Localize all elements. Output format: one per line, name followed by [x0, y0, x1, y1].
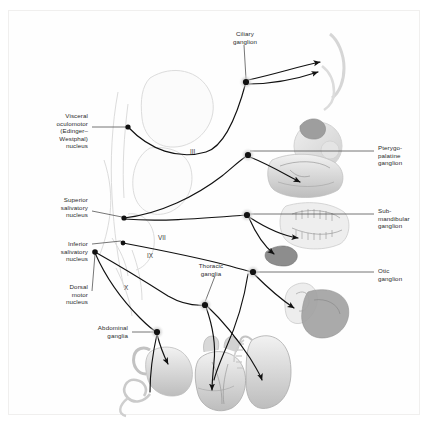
path-submandibular-to-gland	[249, 218, 274, 254]
label-cranial-nerve-x: X	[124, 284, 128, 291]
label-thoracic-ganglia: Thoracic ganglia	[182, 262, 240, 277]
leader-dorsal-motor	[92, 254, 95, 291]
label-visceral-oculomotor-nucleus: Visceral oculomotor (Edinger– Westphal) …	[16, 112, 88, 150]
label-ciliary-ganglion: Ciliary ganglion	[215, 30, 275, 45]
path-cn7-to-submandibular	[124, 215, 246, 220]
label-inferior-salivatory-nucleus: Inferior salivatory nucleus	[16, 240, 88, 263]
lacrimal-gland-illustration	[300, 119, 326, 139]
leader-ciliary-ganglion	[244, 45, 246, 79]
label-pterygopalatine-ganglion: Pterygo- palatine ganglion	[378, 144, 432, 167]
node-thoracic-ganglia	[198, 298, 213, 313]
label-cranial-nerve-iii: III	[190, 148, 195, 155]
eye-illustration	[294, 34, 344, 170]
label-cranial-nerve-vii: VII	[158, 234, 166, 241]
label-cranial-nerve-ix: IX	[147, 252, 153, 259]
parasympathetic-nervous-system-figure: Visceral oculomotor (Edinger– Westphal) …	[0, 0, 434, 432]
label-submandibular-ganglion: Sub- mandibular ganglion	[378, 207, 432, 230]
label-dorsal-motor-nucleus: Dorsal motor nucleus	[16, 283, 88, 306]
path-cn10-to-thoracic	[95, 252, 205, 305]
ear-parotid-gland-illustration	[285, 283, 349, 338]
leader-superior-salivatory	[92, 211, 122, 217]
teeth-jaw-illustration	[280, 203, 349, 249]
submandibular-sublingual-gland-illustration	[265, 246, 297, 266]
node-submandibular-ganglion	[240, 208, 255, 223]
label-superior-salivatory-nucleus: Superior salivatory nucleus	[16, 196, 88, 219]
node-pterygopalatine-ganglion	[241, 148, 256, 163]
label-otic-ganglion: Otic ganglion	[378, 267, 432, 282]
nasal-palatine-mucosa-illustration	[268, 154, 343, 197]
path-ciliary-to-eye-upper	[248, 62, 320, 80]
node-abdominal-ganglia	[150, 325, 165, 340]
stomach-intestine-illustration	[120, 347, 192, 416]
node-otic-ganglion	[246, 265, 261, 280]
label-abdominal-ganglia: Abdominal ganglia	[62, 324, 128, 339]
node-ciliary-ganglion	[239, 75, 254, 90]
